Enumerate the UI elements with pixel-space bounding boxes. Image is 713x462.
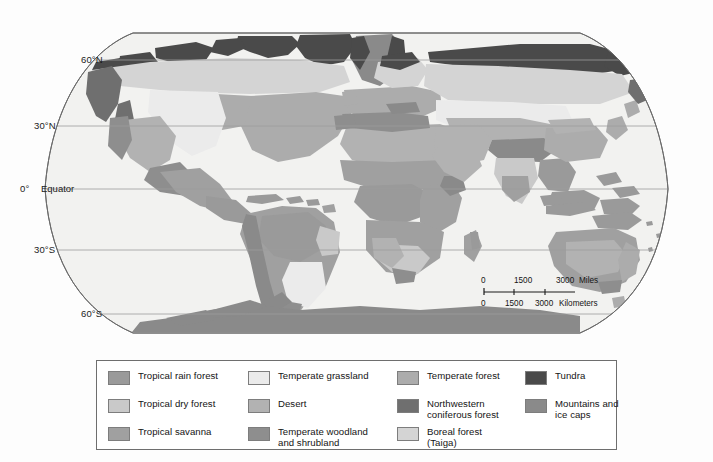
legend-label-tropical-savanna: Tropical savanna: [138, 426, 212, 438]
scale-bar-line: [483, 288, 575, 295]
legend-swatch-tropical-dry-forest: [108, 399, 130, 413]
scale-miles-unit: Miles: [579, 276, 598, 285]
legend-label-temperate-forest: Temperate forest: [427, 370, 500, 382]
legend-column-4: Tundra Mountains and ice caps: [525, 370, 620, 426]
legend-item: Tropical dry forest: [108, 398, 248, 420]
legend-label-tropical-dry-forest: Tropical dry forest: [138, 398, 215, 410]
world-map: 60°N 30°N 0° Equator 30°S 60°S 0 1500 30…: [0, 0, 713, 352]
legend-item: Tropical rain forest: [108, 370, 248, 392]
legend-swatch-tropical-rain-forest: [108, 371, 130, 385]
legend-label-temperate-woodland-shrubland: Temperate woodland and shrubland: [278, 426, 368, 448]
legend-item: Mountains and ice caps: [525, 398, 620, 420]
scale-miles-0: 0: [481, 276, 486, 285]
legend-item: Tundra: [525, 370, 620, 392]
scale-miles-row: 0 1500 3000 Miles: [478, 276, 628, 287]
legend-item: Temperate forest: [397, 370, 527, 392]
legend-label-temperate-grassland: Temperate grassland: [278, 370, 369, 382]
lat-label-30n: 30°N: [34, 120, 56, 131]
legend-column-3: Temperate forest Northwestern coniferous…: [397, 370, 527, 454]
legend-item: Desert: [248, 398, 396, 420]
scale-miles-1500: 1500: [514, 276, 532, 285]
legend-item: Temperate woodland and shrubland: [248, 426, 396, 448]
scale-km-unit: Kilometers: [559, 299, 598, 308]
legend-label-tundra: Tundra: [555, 370, 585, 382]
map-page: 60°N 30°N 0° Equator 30°S 60°S 0 1500 30…: [0, 0, 713, 462]
legend-item: Temperate grassland: [248, 370, 396, 392]
legend-swatch-boreal-forest-taiga: [397, 427, 419, 441]
legend-swatch-temperate-grassland: [248, 371, 270, 385]
lat-label-0: 0°: [20, 183, 29, 194]
scale-km-3000: 3000: [535, 299, 553, 308]
legend-swatch-tundra: [525, 371, 547, 385]
equator-label: Equator: [41, 183, 74, 194]
legend-label-desert: Desert: [278, 398, 307, 410]
legend-item: Boreal forest (Taiga): [397, 426, 527, 448]
legend-label-tropical-rain-forest: Tropical rain forest: [138, 370, 218, 382]
legend-label-mountains-ice-caps: Mountains and ice caps: [555, 398, 619, 420]
legend-column-2: Temperate grassland Desert Temperate woo…: [248, 370, 396, 454]
lat-label-60n: 60°N: [81, 54, 103, 65]
legend-swatch-mountains-ice-caps: [525, 399, 547, 413]
scale-bar: 0 1500 3000 Miles 0 1500 3000 Kilometers: [478, 276, 628, 310]
legend-swatch-temperate-forest: [397, 371, 419, 385]
legend-swatch-northwestern-coniferous-forest: [397, 399, 419, 413]
lat-label-60s: 60°S: [81, 308, 102, 319]
legend-item: Tropical savanna: [108, 426, 248, 448]
lat-label-30s: 30°S: [34, 244, 55, 255]
legend-swatch-desert: [248, 399, 270, 413]
scale-km-row: 0 1500 3000 Kilometers: [478, 299, 628, 310]
scale-miles-3000: 3000: [556, 276, 574, 285]
legend-label-northwestern-coniferous-forest: Northwestern coniferous forest: [427, 398, 499, 420]
legend-item: Northwestern coniferous forest: [397, 398, 527, 420]
scale-km-1500: 1500: [505, 299, 523, 308]
scale-km-0: 0: [481, 299, 486, 308]
legend-swatch-tropical-savanna: [108, 427, 130, 441]
legend-column-1: Tropical rain forest Tropical dry forest…: [108, 370, 248, 454]
map-legend: Tropical rain forest Tropical dry forest…: [96, 360, 617, 450]
legend-label-boreal-forest-taiga: Boreal forest (Taiga): [427, 426, 482, 448]
legend-swatch-temperate-woodland-shrubland: [248, 427, 270, 441]
